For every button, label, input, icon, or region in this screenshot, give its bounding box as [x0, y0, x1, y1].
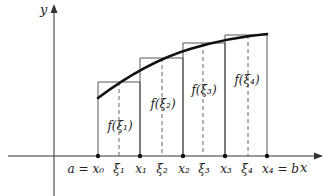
diagram-canvas: y x a = x₀ ξ₁ x₁ ξ₂ x₂ ξ₃ x₃ ξ₄ x₄ = b f…: [0, 0, 325, 196]
label-f-xi4: f(ξ₄): [233, 73, 260, 87]
rectangle-3: [183, 43, 225, 156]
tick-label-x0: a = x₀: [68, 162, 105, 176]
tick-label-x1: x₁: [135, 162, 147, 176]
tick-label-x2: x₂: [178, 162, 190, 176]
tick-labels: a = x₀ ξ₁ x₁ ξ₂ x₂ ξ₃ x₃ ξ₄ x₄ = b: [68, 162, 299, 176]
x3-dot: [223, 154, 227, 158]
label-f-xi3: f(ξ₃): [190, 83, 217, 97]
riemann-sum-diagram: y x a = x₀ ξ₁ x₁ ξ₂ x₂ ξ₃ x₃ ξ₄ x₄ = b f…: [0, 0, 325, 196]
y-axis-arrow-icon: [51, 4, 58, 13]
rectangles: [98, 35, 267, 156]
tick-label-xi4: ξ₄: [241, 162, 253, 176]
label-f-xi1: f(ξ₁): [106, 119, 133, 133]
x0-dot: [96, 154, 100, 158]
x2-dot: [181, 154, 185, 158]
x-axis-arrow-icon: [314, 153, 323, 160]
tick-label-xi3: ξ₃: [198, 162, 210, 176]
x4-dot: [265, 154, 269, 158]
rectangle-4: [225, 35, 267, 156]
y-axis-label: y: [39, 2, 48, 17]
sample-lines: [119, 35, 248, 156]
tick-label-xi2: ξ₂: [156, 162, 168, 176]
tick-label-x3: x₃: [220, 162, 232, 176]
tick-label-xi1: ξ₁: [113, 162, 124, 176]
tick-label-x4: x₄ = b: [262, 162, 299, 176]
x1-dot: [138, 154, 142, 158]
label-f-xi2: f(ξ₂): [149, 97, 176, 111]
function-curve: [98, 34, 267, 98]
x-axis-label: x: [300, 160, 308, 175]
